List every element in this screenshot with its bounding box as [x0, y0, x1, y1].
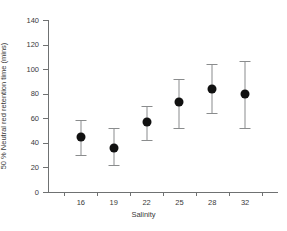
- y-tick: 0: [43, 192, 48, 193]
- data-point-marker: [142, 117, 151, 126]
- y-tick-label: 20: [31, 164, 39, 172]
- errorbar-cap-lower: [75, 155, 86, 156]
- errorbar-cap-upper: [240, 61, 251, 62]
- y-tick: 140: [43, 20, 48, 21]
- x-tick: [130, 192, 131, 196]
- errorbar-cap-lower: [174, 128, 185, 129]
- data-point-marker: [175, 98, 184, 107]
- data-point-marker: [109, 143, 118, 152]
- y-tick-label: 80: [31, 90, 39, 98]
- errorbar-cap-upper: [207, 64, 218, 65]
- x-tick: [163, 192, 164, 196]
- x-tick: [97, 192, 98, 196]
- errorbar-cap-lower: [141, 140, 152, 141]
- data-point-group: [169, 0, 189, 231]
- y-tick: 20: [43, 167, 48, 168]
- y-tick: 40: [43, 143, 48, 144]
- errorbar-cap-upper: [141, 106, 152, 107]
- y-tick-label: 40: [31, 140, 39, 148]
- y-axis-title: 50 % Neutral red retention time (mins): [0, 43, 8, 170]
- errorbar-cap-lower: [207, 113, 218, 114]
- errorbar-cap-lower: [108, 165, 119, 166]
- x-tick: [229, 192, 230, 196]
- errorbar-cap-lower: [240, 128, 251, 129]
- data-point-marker: [208, 84, 217, 93]
- y-tick: 100: [43, 69, 48, 70]
- y-tick: 60: [43, 118, 48, 119]
- data-point-group: [202, 0, 222, 231]
- y-tick: 80: [43, 94, 48, 95]
- x-tick: [262, 192, 263, 196]
- y-tick-label: 140: [26, 17, 39, 25]
- errorbar-cap-upper: [174, 79, 185, 80]
- errorbar-cap-upper: [75, 120, 86, 121]
- data-point-marker: [76, 132, 85, 141]
- data-point-group: [235, 0, 255, 231]
- data-point-group: [104, 0, 124, 231]
- y-axis-line: [48, 20, 49, 192]
- y-tick-label: 0: [35, 189, 39, 197]
- x-axis-title: Salinity: [0, 211, 287, 219]
- y-tick-label: 60: [31, 115, 39, 123]
- y-tick: 120: [43, 45, 48, 46]
- y-tick-label: 100: [26, 66, 39, 74]
- scatter-chart-figure: 020406080100120140 161922252832 50 % Neu…: [0, 0, 287, 231]
- data-point-marker: [241, 89, 250, 98]
- y-tick-label: 120: [26, 41, 39, 49]
- data-point-group: [137, 0, 157, 231]
- x-tick: [196, 192, 197, 196]
- data-point-group: [71, 0, 91, 231]
- errorbar-cap-upper: [108, 128, 119, 129]
- x-tick: [64, 192, 65, 196]
